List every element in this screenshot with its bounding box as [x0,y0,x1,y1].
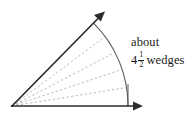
fraction-numerator: 1 [138,51,144,59]
annotation-quantity-line: 412wedges [131,52,195,70]
figure-root: about 412wedges [0,0,195,118]
angle-arc [94,23,129,106]
annotation-about-label: about [131,36,195,49]
wedge-divider-2 [12,70,122,106]
wedge-unit-label: wedges [146,54,184,67]
wedge-count-annotation: about 412wedges [131,36,195,70]
wedge-count-whole-number: 4 [131,54,137,67]
horizontal-ray-arrowhead [133,102,143,111]
upper-ray [12,19,99,107]
wedge-divider-4 [12,37,105,106]
fraction-denominator: 2 [138,61,144,69]
wedge-count-fraction: 12 [138,51,144,69]
angle-vertex [11,105,13,107]
